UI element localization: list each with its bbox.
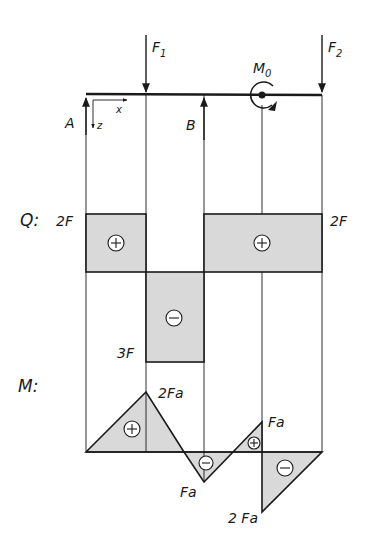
moment-diagram: M: 2Fa Fa Fa 2 Fa xyxy=(18,376,322,526)
x-axis-label: x xyxy=(115,104,122,115)
shear-right-value: 2F xyxy=(330,213,348,229)
minus-sign-icon xyxy=(199,456,213,470)
moment-trough-value: Fa xyxy=(180,484,197,500)
minus-sign-icon xyxy=(277,460,293,476)
shear-min-value: 3F xyxy=(117,345,135,361)
moment-min-value: 2 Fa xyxy=(228,510,258,526)
z-axis-label: z xyxy=(96,120,103,131)
moment-m0-label: M0 xyxy=(253,60,271,79)
moment-m0: M0 xyxy=(251,60,277,111)
support-a-label: A xyxy=(64,115,75,131)
shear-diagram: Q: 2F 2F 3F xyxy=(20,210,348,362)
moment-peak2-value: Fa xyxy=(268,414,285,430)
moment-area-negative-2 xyxy=(262,452,322,512)
beam: F1 F2 A B x z M0 xyxy=(64,35,342,140)
plus-sign-icon xyxy=(108,235,124,251)
force-f2-label: F2 xyxy=(328,39,342,59)
support-b-label: B xyxy=(186,117,196,133)
plus-sign-icon xyxy=(248,437,260,449)
plus-sign-icon xyxy=(124,421,140,437)
minus-sign-icon xyxy=(166,310,182,326)
moment-peak-value: 2Fa xyxy=(158,385,184,401)
moment-label: M: xyxy=(18,376,38,396)
shear-label: Q: xyxy=(20,210,39,230)
force-f1-label: F1 xyxy=(152,39,166,59)
shear-left-value: 2F xyxy=(56,213,74,229)
plus-sign-icon xyxy=(254,235,270,251)
beam-diagram-canvas: F1 F2 A B x z M0 Q: 2F 2F 3F xyxy=(0,0,371,550)
beam-line xyxy=(86,94,322,95)
moment-point-icon xyxy=(259,92,266,99)
